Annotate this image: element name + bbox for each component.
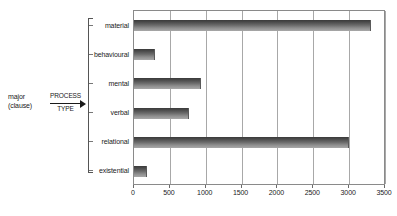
x-axis-label-3000: 3000 [341,189,356,196]
x-axis-tick [312,185,313,188]
bar [134,20,371,31]
x-axis: 0500100015002000250030003500 [133,185,385,207]
bar [134,137,349,148]
x-axis-tick [205,185,206,188]
x-axis-tick [384,185,385,188]
x-axis-label-1000: 1000 [197,189,212,196]
category-label-behavioural: behavioural [94,50,129,57]
gridline [242,11,243,184]
category-axis-labels: materialbehaviouralmentalverbalrelationa… [0,0,131,216]
x-axis-tick [348,185,349,188]
gridline [206,11,207,184]
x-axis-label-2500: 2500 [305,189,320,196]
bar [134,166,147,177]
gridline [313,11,314,184]
bar [134,78,201,89]
chart-figure: major (clause) PROCESS TYPE materialbeha… [0,0,397,216]
bar [134,49,155,60]
category-label-mental: mental [109,79,129,86]
category-label-material: material [105,21,129,28]
gridline [349,11,350,184]
x-axis-tick [276,185,277,188]
x-axis-label-3500: 3500 [376,189,391,196]
plot-area [133,10,385,185]
category-label-verbal: verbal [111,109,129,116]
x-axis-tick [133,185,134,188]
gridline [277,11,278,184]
x-axis-label-500: 500 [163,189,174,196]
x-axis-tick [241,185,242,188]
bar [134,108,189,119]
x-axis-label-0: 0 [131,189,135,196]
category-label-existential: existential [99,167,129,174]
x-axis-tick [169,185,170,188]
category-label-relational: relational [102,138,129,145]
x-axis-label-1500: 1500 [233,189,248,196]
gridline [170,11,171,184]
x-axis-label-2000: 2000 [269,189,284,196]
gridline [385,11,386,184]
